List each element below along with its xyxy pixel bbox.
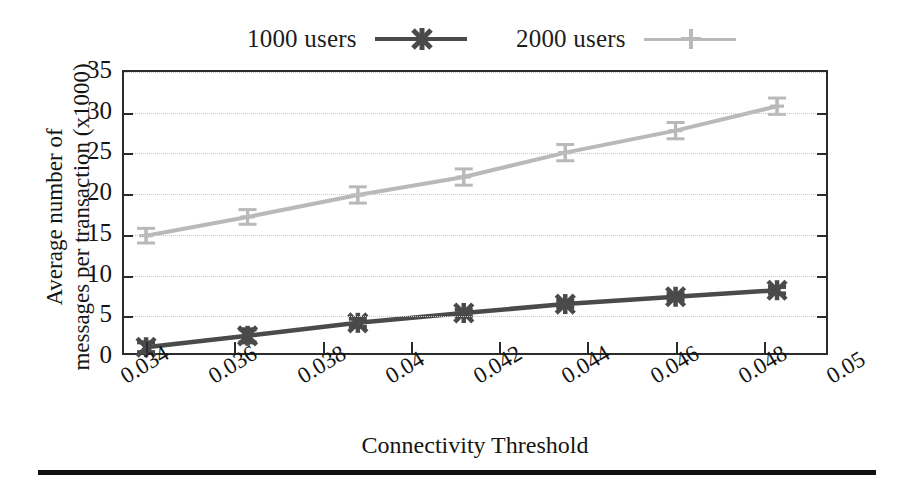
gridline xyxy=(124,235,826,236)
y-tick-label: 20 xyxy=(56,179,112,204)
x-axis-title: Connectivity Threshold xyxy=(122,432,828,459)
y-tick-mark xyxy=(124,153,133,155)
y-tick-mark xyxy=(124,316,133,318)
series-layer xyxy=(124,72,830,357)
plus-marker xyxy=(241,210,255,224)
legend-entry-1000-users: 1000 users xyxy=(247,20,467,58)
y-tick-mark xyxy=(124,194,133,196)
y-tick-label: 35 xyxy=(56,57,112,82)
y-tick-mark xyxy=(124,113,133,115)
legend-marker-1000-users xyxy=(375,26,467,52)
cross-x-icon xyxy=(409,26,435,52)
page-rule-divider xyxy=(38,470,876,475)
legend-label-2000-users: 2000 users xyxy=(516,25,626,53)
plus-icon xyxy=(678,26,704,52)
legend-marker-2000-users xyxy=(644,26,736,52)
y-tick-mark xyxy=(124,235,133,237)
gridline xyxy=(124,153,826,154)
plus-marker xyxy=(770,99,784,113)
y-tick-mark xyxy=(817,153,826,155)
gridline xyxy=(124,316,826,317)
legend-entry-2000-users: 2000 users xyxy=(516,20,736,58)
series-2000-users xyxy=(137,98,786,243)
legend-label-1000-users: 1000 users xyxy=(247,25,357,53)
y-tick-mark xyxy=(817,316,826,318)
gridline xyxy=(124,113,826,114)
chart-legend: 1000 users 2000 users xyxy=(0,20,899,58)
y-tick-label: 30 xyxy=(56,98,112,123)
y-tick-mark xyxy=(817,113,826,115)
y-tick-mark xyxy=(817,235,826,237)
gridline xyxy=(124,276,826,277)
gridline xyxy=(124,194,826,195)
y-tick-mark xyxy=(124,276,133,278)
plus-marker xyxy=(669,124,683,138)
plot-area xyxy=(122,70,828,355)
plus-marker xyxy=(457,170,471,184)
y-tick-label: 5 xyxy=(56,301,112,326)
y-tick-label: 0 xyxy=(56,342,112,367)
y-tick-label: 25 xyxy=(56,138,112,163)
y-tick-mark xyxy=(817,194,826,196)
y-tick-mark xyxy=(817,276,826,278)
gridline xyxy=(124,72,826,73)
y-tick-label: 10 xyxy=(56,261,112,286)
y-tick-label: 15 xyxy=(56,220,112,245)
figure-container: 1000 users 2000 users xyxy=(0,0,899,489)
